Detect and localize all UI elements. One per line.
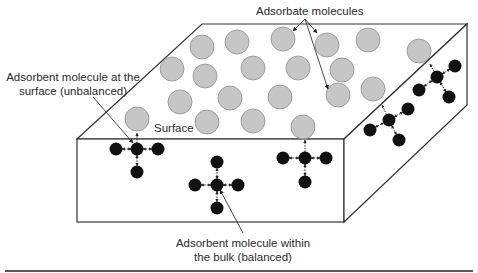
adsorbent-atom bbox=[277, 152, 290, 165]
adsorbate-label: Adsorbate molecules bbox=[256, 4, 363, 18]
surface-label-text: Surface bbox=[154, 121, 194, 135]
bulk-molecule-label-line1: Adsorbent molecule within bbox=[172, 236, 314, 250]
surface-molecule-label: Adsorbent molecule at the surface (unbal… bbox=[4, 70, 142, 98]
adsorbent-atom bbox=[299, 176, 312, 189]
adsorbate-molecule bbox=[268, 85, 292, 109]
adsorbate-molecule bbox=[125, 107, 149, 131]
adsorbate-label-text: Adsorbate molecules bbox=[256, 4, 363, 18]
adsorption-diagram: Adsorbate molecules Adsorbent molecule a… bbox=[0, 0, 478, 273]
adsorbent-atom bbox=[189, 179, 202, 192]
adsorbent-atom bbox=[232, 179, 245, 192]
adsorbent-atom bbox=[211, 156, 224, 169]
adsorbent-atom bbox=[110, 143, 123, 156]
adsorbent-atom bbox=[402, 103, 415, 116]
adsorbent-center-atom bbox=[299, 152, 312, 165]
adsorbent-atom bbox=[443, 91, 456, 104]
adsorbent-atom bbox=[131, 166, 144, 179]
adsorbate-molecule bbox=[407, 39, 431, 63]
adsorbate-molecule bbox=[286, 56, 310, 80]
adsorbate-molecule bbox=[330, 58, 354, 82]
diagram-canvas bbox=[0, 0, 478, 273]
adsorbate-molecule bbox=[315, 33, 339, 57]
adsorbate-molecule bbox=[361, 77, 385, 101]
adsorbate-molecule bbox=[193, 64, 217, 88]
adsorbent-center-atom bbox=[383, 114, 396, 127]
adsorbate-molecule bbox=[241, 56, 265, 80]
adsorbent-atom bbox=[364, 124, 377, 137]
adsorbate-molecule bbox=[190, 35, 214, 59]
adsorbate-molecule bbox=[195, 110, 219, 134]
adsorbent-atom bbox=[152, 143, 165, 156]
adsorbent-center-atom bbox=[131, 143, 144, 156]
bulk-molecule-label: Adsorbent molecule within the bulk (bala… bbox=[172, 236, 314, 264]
adsorbate-molecule bbox=[241, 109, 265, 133]
bulk-molecule-label-line2: the bulk (balanced) bbox=[172, 250, 314, 264]
adsorbent-atom bbox=[211, 202, 224, 215]
adsorbate-molecule bbox=[356, 28, 380, 52]
adsorbent-atom bbox=[393, 134, 406, 147]
surface-molecule-label-line1: Adsorbent molecule at the bbox=[4, 70, 142, 84]
adsorbent-atom bbox=[413, 84, 426, 97]
adsorbent-atom bbox=[449, 60, 462, 73]
adsorbate-molecule bbox=[271, 27, 295, 51]
adsorbate-molecule bbox=[326, 83, 350, 107]
surface-label: Surface bbox=[154, 121, 194, 135]
adsorbent-atom bbox=[320, 152, 333, 165]
adsorbent-center-atom bbox=[431, 71, 444, 84]
adsorbate-molecule bbox=[168, 90, 192, 114]
adsorbate-molecule bbox=[225, 30, 249, 54]
adsorbate-molecule bbox=[160, 57, 184, 81]
adsorbate-molecule bbox=[218, 86, 242, 110]
surface-molecule-label-line2: surface (unbalanced) bbox=[4, 84, 142, 98]
adsorbent-center-atom bbox=[211, 179, 224, 192]
adsorbate-molecule bbox=[291, 115, 315, 139]
